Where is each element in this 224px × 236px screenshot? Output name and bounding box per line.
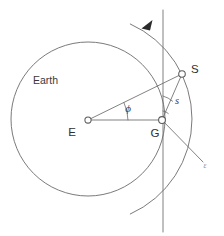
ground-station-point-marker: [159, 117, 166, 124]
central-angle-phi-label: ϕ: [125, 102, 131, 114]
segment-elevation-ray: [161, 119, 203, 162]
earth-label: Earth: [33, 74, 58, 86]
slant-range-s-label: s: [175, 95, 179, 106]
earth-center-label: E: [68, 126, 76, 138]
earth-center-point-marker: [85, 117, 91, 123]
geometry-canvas: Earth E G S ϕ s ε: [0, 0, 224, 236]
satellite-geometry-diagram: Earth E G S ϕ s ε: [0, 0, 224, 236]
orbit-direction-arrow-icon: [142, 20, 153, 31]
satellite-point-marker: [179, 71, 186, 78]
ground-station-label: G: [151, 127, 160, 139]
elevation-angle-epsilon-label: ε: [204, 161, 207, 170]
satellite-label: S: [191, 63, 199, 75]
